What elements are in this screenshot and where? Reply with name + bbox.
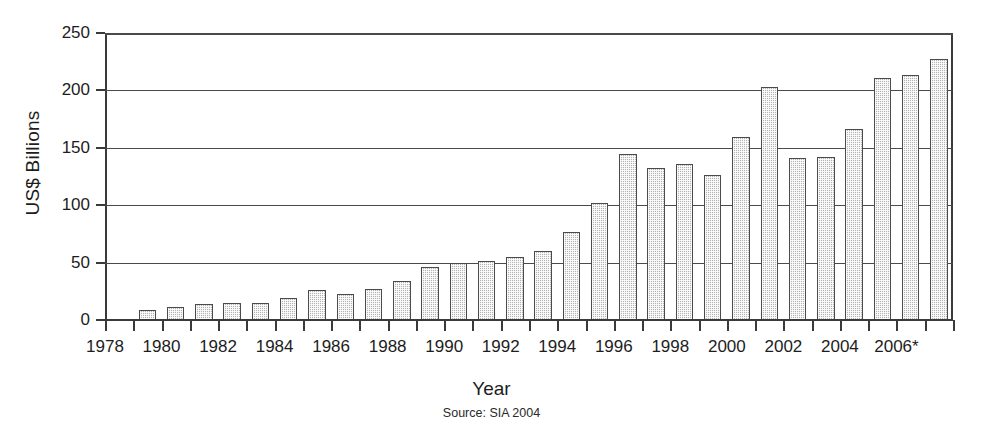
- bar: [478, 261, 496, 320]
- y-tick-mark-200: [96, 89, 105, 91]
- x-tick-mark: [557, 320, 559, 331]
- y-tick-label-150: 150: [38, 138, 90, 158]
- x-axis-tick-marks: [105, 320, 953, 332]
- x-tick-mark: [614, 320, 616, 331]
- x-tick-mark: [642, 320, 644, 331]
- x-tick-mark: [896, 320, 898, 331]
- y-tick-mark-0: [96, 319, 105, 321]
- x-tick-mark: [162, 320, 164, 331]
- bar: [223, 303, 241, 320]
- bar: [789, 158, 807, 320]
- bar-series: [105, 33, 953, 320]
- x-tick-mark: [275, 320, 277, 331]
- y-tick-mark-50: [96, 262, 105, 264]
- x-tick-mark: [755, 320, 757, 331]
- bar: [280, 298, 298, 320]
- bar: [421, 267, 439, 320]
- x-axis-title: Year: [0, 378, 983, 400]
- x-tick-mark: [472, 320, 474, 331]
- bar: [902, 75, 920, 320]
- x-tick-mark: [105, 320, 107, 331]
- x-tick-mark: [953, 320, 955, 331]
- y-axis-tick-labels: 050100150200250: [38, 0, 90, 437]
- source-caption: Source: SIA 2004: [0, 406, 983, 420]
- bar: [817, 157, 835, 320]
- x-tick-mark: [586, 320, 588, 331]
- x-tick-label-2006-projected: 2006*: [851, 337, 941, 357]
- x-tick-mark: [783, 320, 785, 331]
- bar: [619, 154, 637, 320]
- bar: [365, 289, 383, 320]
- bar: [308, 290, 326, 320]
- y-tick-label-50: 50: [38, 253, 90, 273]
- bar: [252, 303, 270, 320]
- x-tick-mark: [727, 320, 729, 331]
- y-tick-mark-250: [96, 32, 105, 34]
- x-tick-mark: [303, 320, 305, 331]
- bar: [845, 129, 863, 320]
- plot-area: [105, 33, 953, 320]
- bar: [874, 78, 892, 320]
- bar: [195, 304, 213, 320]
- y-tick-label-200: 200: [38, 80, 90, 100]
- bar: [591, 203, 609, 320]
- x-tick-mark: [501, 320, 503, 331]
- bar: [647, 168, 665, 320]
- bar: [930, 59, 948, 320]
- x-tick-mark: [444, 320, 446, 331]
- y-tick-mark-100: [96, 204, 105, 206]
- x-tick-mark: [699, 320, 701, 331]
- bar: [676, 164, 694, 320]
- y-tick-mark-150: [96, 147, 105, 149]
- x-tick-mark: [670, 320, 672, 331]
- y-tick-label-0: 0: [38, 310, 90, 330]
- bar: [563, 232, 581, 320]
- x-tick-mark: [840, 320, 842, 331]
- y-tick-label-250: 250: [38, 23, 90, 43]
- bar: [337, 294, 355, 320]
- bar: [450, 263, 468, 320]
- x-tick-mark: [416, 320, 418, 331]
- x-tick-mark: [388, 320, 390, 331]
- bar: [761, 87, 779, 320]
- x-tick-mark: [529, 320, 531, 331]
- x-tick-mark: [218, 320, 220, 331]
- x-tick-mark: [359, 320, 361, 331]
- bar: [704, 175, 722, 320]
- x-tick-mark: [190, 320, 192, 331]
- x-tick-mark: [331, 320, 333, 331]
- bar: [732, 137, 750, 320]
- x-tick-mark: [133, 320, 135, 331]
- semiconductor-revenue-bar-chart: US$ Billions 050100150200250 19781980198…: [0, 0, 983, 437]
- x-tick-mark: [868, 320, 870, 331]
- bar: [506, 257, 524, 320]
- y-tick-label-100: 100: [38, 195, 90, 215]
- x-axis-tick-labels: 1978198019821984198619881990199219941996…: [0, 337, 983, 363]
- x-tick-mark: [812, 320, 814, 331]
- bar: [534, 251, 552, 320]
- x-tick-mark: [925, 320, 927, 331]
- bar: [393, 281, 411, 320]
- x-tick-mark: [246, 320, 248, 331]
